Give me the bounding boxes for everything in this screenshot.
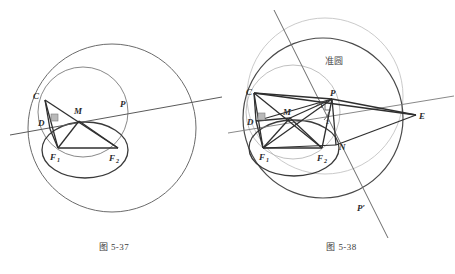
point-label-F2: F <box>316 153 323 163</box>
point-label-M: M <box>73 106 83 116</box>
point-sublabel-F2: 2 <box>323 158 327 164</box>
segment-M-F1 <box>58 121 79 148</box>
point-sublabel-F2: 2 <box>115 158 119 164</box>
segment-M-P <box>290 99 332 118</box>
point-sublabel-F1: 1 <box>57 157 60 163</box>
segment-P-E <box>332 99 416 115</box>
point-label-D: D <box>246 117 254 127</box>
point-label-F2: F <box>108 153 115 163</box>
point-sublabel-F1: 1 <box>266 157 269 163</box>
figure-caption-right: 图 5-38 <box>228 240 455 253</box>
right-angle-marker-D <box>258 113 265 120</box>
point-label-P: P <box>330 88 336 98</box>
segment-P-N <box>332 99 336 145</box>
point-label-E: E <box>418 111 425 121</box>
segment-M-F2 <box>290 118 322 148</box>
figure-5-38: 准圆 C D M P E N F 1 F 2 P′ 1 2 图 5-38 <box>228 0 455 274</box>
point-label-C: C <box>33 91 40 101</box>
figure-caption-left: 图 5-37 <box>0 240 228 253</box>
segment-M-F2 <box>79 121 118 148</box>
tangent-line <box>10 97 222 135</box>
segment-N-E <box>336 115 416 145</box>
ellipse <box>42 122 128 178</box>
point-label-F1: F <box>49 152 56 162</box>
angle-label-1: 1 <box>320 103 323 109</box>
point-label-D: D <box>37 118 45 128</box>
line-P-Pprime <box>274 10 388 238</box>
angle-label-2: 2 <box>326 119 329 125</box>
right-angle-marker-D <box>51 114 58 121</box>
figure-page: C D M P F 1 F 2 图 5-37 <box>0 0 455 274</box>
point-label-M: M <box>282 107 292 117</box>
figure-5-38-canvas: 准圆 C D M P E N F 1 F 2 P′ 1 2 <box>228 0 455 240</box>
figure-5-37-canvas: C D M P F 1 F 2 <box>0 0 228 240</box>
medium-circle <box>38 67 128 157</box>
light-outer-circle <box>247 18 403 174</box>
point-label-P: P <box>120 99 126 109</box>
director-circle-annotation: 准圆 <box>325 56 343 66</box>
point-label-F1: F <box>258 152 265 162</box>
point-label-N: N <box>338 142 346 152</box>
figure-5-37: C D M P F 1 F 2 图 5-37 <box>0 0 228 274</box>
point-label-C: C <box>246 87 253 97</box>
point-label-P-prime: P′ <box>357 203 365 213</box>
